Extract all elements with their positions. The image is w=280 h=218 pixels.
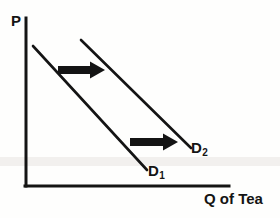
graph-canvas: [0, 0, 280, 218]
demand-curve-d2-label: D2: [191, 140, 207, 155]
demand-curve-d1-label-subscript: 1: [159, 170, 165, 181]
demand-shift-figure: P Q of Tea D1 D2: [0, 0, 280, 218]
lower-shift-arrow: [130, 134, 178, 151]
upper-shift-arrow: [58, 62, 105, 79]
y-axis-label: P: [11, 13, 21, 28]
demand-curve-d2: [81, 40, 191, 148]
demand-curve-d1-label: D1: [148, 163, 164, 178]
demand-curve-d2-label-text: D: [191, 139, 202, 156]
demand-curve-d2-label-subscript: 2: [202, 147, 208, 158]
demand-curve-d1-label-text: D: [148, 162, 159, 179]
x-axis-label: Q of Tea: [204, 191, 263, 206]
